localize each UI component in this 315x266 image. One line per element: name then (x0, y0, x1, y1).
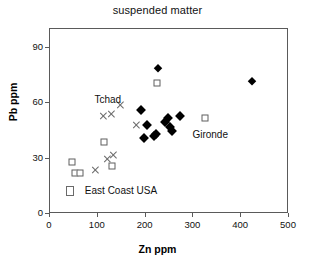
data-point-gironde (175, 111, 185, 121)
data-point-east-coast-usa (109, 162, 116, 169)
y-tick-label: 60 (17, 96, 43, 107)
x-tick-label: 0 (35, 219, 63, 230)
x-tick-mark (145, 213, 146, 217)
east-coast-usa-legend-marker (66, 186, 74, 196)
x-tick-label: 300 (178, 219, 206, 230)
x-tick-mark (192, 213, 193, 217)
data-point-gironde (139, 133, 149, 143)
annotation-gironde: Gironde (192, 129, 228, 140)
x-tick-label: 100 (83, 219, 111, 230)
data-point-gironde (248, 77, 256, 85)
chart-figure: suspended matter Pb ppm Zn ppm 010020030… (0, 0, 315, 266)
x-tick-mark (49, 213, 50, 217)
data-point-tchad (91, 165, 100, 174)
chart-title: suspended matter (0, 4, 315, 16)
y-tick-label: 30 (17, 152, 43, 163)
data-point-east-coast-usa (68, 159, 75, 166)
data-point-tchad (109, 150, 118, 159)
x-tick-label: 500 (274, 219, 302, 230)
data-point-east-coast-usa (154, 79, 161, 86)
y-tick-label: 0 (17, 207, 43, 218)
data-point-gironde (142, 120, 152, 130)
data-point-east-coast-usa (202, 114, 209, 121)
y-tick-label: 90 (17, 41, 43, 52)
data-point-tchad (132, 121, 141, 130)
x-tick-mark (97, 213, 98, 217)
x-tick-mark (240, 213, 241, 217)
x-axis-label: Zn ppm (0, 243, 315, 255)
data-point-east-coast-usa (101, 138, 108, 145)
data-point-tchad (107, 110, 116, 119)
y-tick-mark (45, 213, 49, 214)
x-tick-label: 400 (226, 219, 254, 230)
x-tick-mark (288, 213, 289, 217)
data-point-gironde (136, 105, 146, 115)
data-point-east-coast-usa (77, 170, 84, 177)
annotation-tchad: Tchad (94, 94, 121, 105)
x-tick-label: 200 (131, 219, 159, 230)
annotation-east-coast-usa: East Coast USA (85, 185, 157, 196)
data-point-gironde (154, 64, 162, 72)
